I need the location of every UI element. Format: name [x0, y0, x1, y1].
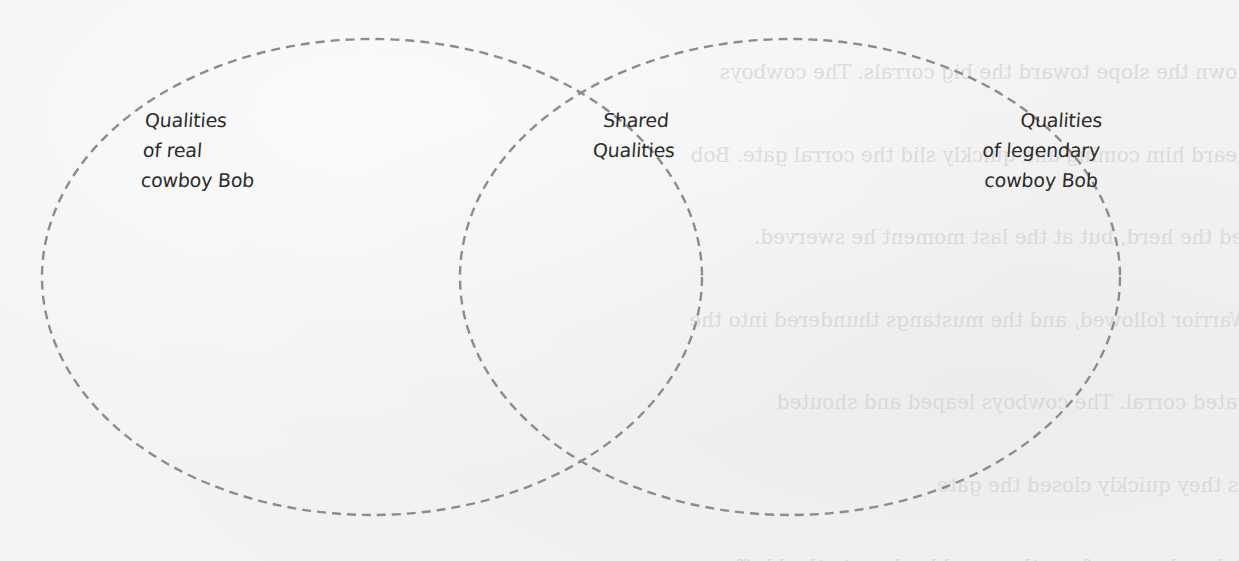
- label-real-qualities: Qualities of real cowboy Bob: [140, 105, 260, 195]
- label-legendary-qualities: Qualities of legendary cowboy Bob: [897, 105, 1103, 195]
- label-shared-qualities: Shared Qualities: [568, 105, 702, 165]
- label-line: Qualities: [568, 135, 700, 165]
- label-line: of real: [142, 135, 257, 165]
- label-line: of legendary: [899, 135, 1101, 165]
- label-line: Qualities: [144, 105, 259, 135]
- label-line: Qualities: [901, 105, 1103, 135]
- venn-diagram: [0, 0, 1239, 561]
- label-line: cowboy Bob: [897, 165, 1099, 195]
- label-line: cowboy Bob: [140, 165, 255, 195]
- label-line: Shared: [570, 105, 702, 135]
